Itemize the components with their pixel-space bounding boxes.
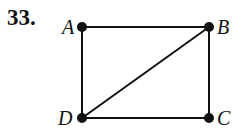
vertex-label-a: A bbox=[60, 16, 75, 38]
vertex-b bbox=[204, 22, 214, 32]
edge-db bbox=[82, 27, 209, 118]
vertex-d bbox=[77, 113, 87, 123]
vertex-label-b: B bbox=[217, 16, 229, 38]
vertex-label-d: D bbox=[57, 107, 73, 129]
vertex-a bbox=[77, 22, 87, 32]
vertex-label-c: C bbox=[217, 107, 231, 129]
graph-edges bbox=[82, 27, 209, 118]
vertex-c bbox=[204, 113, 214, 123]
graph-diagram: ABCD bbox=[0, 0, 241, 131]
